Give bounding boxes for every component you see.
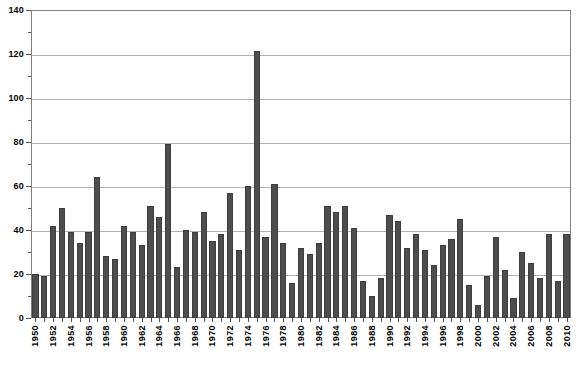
x-axis-label: 1976 <box>261 325 271 347</box>
x-axis-label: 1992 <box>402 325 412 347</box>
bar <box>324 206 330 318</box>
x-axis-label: 1972 <box>225 325 235 347</box>
x-axis-label: 1954 <box>66 325 76 347</box>
y-axis-label: 80 <box>14 137 24 147</box>
bar <box>130 232 136 318</box>
x-axis-tick <box>328 318 329 322</box>
bar <box>156 217 162 318</box>
bar <box>563 234 569 318</box>
bar <box>103 256 109 318</box>
x-axis-tick <box>363 318 364 322</box>
x-axis-tick <box>274 318 275 322</box>
x-axis-tick <box>549 318 550 322</box>
x-axis-tick <box>416 318 417 322</box>
y-axis-label: 100 <box>8 93 24 103</box>
bar <box>271 184 277 318</box>
y-axis-label: 60 <box>14 181 24 191</box>
x-axis-tick <box>62 318 63 322</box>
bar <box>227 193 233 318</box>
bar <box>245 186 251 318</box>
bar <box>307 254 313 318</box>
x-axis-tick <box>336 318 337 322</box>
x-axis-tick <box>239 318 240 322</box>
x-axis-label: 1956 <box>84 325 94 347</box>
x-axis-tick <box>301 318 302 322</box>
x-axis-tick <box>248 318 249 322</box>
x-axis-label: 1982 <box>314 325 324 347</box>
bar <box>440 245 446 318</box>
x-axis-tick <box>407 318 408 322</box>
x-axis-tick <box>53 318 54 322</box>
x-axis-tick <box>381 318 382 322</box>
x-axis-label: 2006 <box>526 325 536 347</box>
bar <box>298 248 304 318</box>
bar <box>351 228 357 318</box>
bar <box>413 234 419 318</box>
x-axis-tick <box>372 318 373 322</box>
x-axis-label: 1994 <box>420 325 430 347</box>
x-axis-tick <box>354 318 355 322</box>
bar <box>484 276 490 318</box>
x-axis-label: 1970 <box>207 325 217 347</box>
x-axis-label: 1986 <box>349 325 359 347</box>
x-axis-tick <box>531 318 532 322</box>
bar <box>395 221 401 318</box>
x-axis-tick <box>159 318 160 322</box>
x-axis-tick <box>230 318 231 322</box>
x-axis-tick <box>133 318 134 322</box>
x-axis-tick <box>460 318 461 322</box>
bar <box>50 226 56 318</box>
x-axis-label: 1990 <box>385 325 395 347</box>
x-axis-label: 1996 <box>438 325 448 347</box>
bar <box>555 281 561 318</box>
x-axis-label: 1968 <box>190 325 200 347</box>
bar <box>422 250 428 318</box>
y-axis-label: 40 <box>14 225 24 235</box>
x-axis-label: 2000 <box>473 325 483 347</box>
x-axis-tick <box>124 318 125 322</box>
x-axis-tick <box>558 318 559 322</box>
x-axis-tick <box>283 318 284 322</box>
bar <box>537 278 543 318</box>
x-axis-tick <box>195 318 196 322</box>
x-axis-label: 1964 <box>154 325 164 347</box>
bar <box>378 278 384 318</box>
x-axis-tick <box>168 318 169 322</box>
x-axis-tick <box>390 318 391 322</box>
x-axis-label: 2010 <box>562 325 572 347</box>
x-axis-tick <box>513 318 514 322</box>
bar <box>262 237 268 318</box>
x-axis-label: 1984 <box>331 325 341 347</box>
bar <box>528 263 534 318</box>
x-axis-tick <box>310 318 311 322</box>
bar <box>316 243 322 318</box>
bar <box>369 296 375 318</box>
bar <box>404 248 410 318</box>
x-axis-label: 1980 <box>296 325 306 347</box>
x-axis-tick <box>142 318 143 322</box>
x-axis-tick <box>567 318 568 322</box>
bar <box>59 208 65 318</box>
x-axis-label: 1962 <box>137 325 147 347</box>
y-axis-label: 120 <box>8 49 24 59</box>
bar <box>236 250 242 318</box>
x-axis-tick <box>80 318 81 322</box>
x-axis-tick <box>319 318 320 322</box>
bar <box>448 239 454 318</box>
bar <box>165 144 171 318</box>
x-axis-tick <box>292 318 293 322</box>
x-axis-label: 2002 <box>491 325 501 347</box>
x-axis-tick <box>434 318 435 322</box>
x-axis-tick <box>478 318 479 322</box>
bar <box>466 285 472 318</box>
x-axis-label: 1950 <box>30 325 40 347</box>
y-axis: 020406080100120140 <box>0 0 31 386</box>
bar <box>431 265 437 318</box>
bar <box>192 232 198 318</box>
bar <box>360 281 366 318</box>
x-axis-tick <box>496 318 497 322</box>
x-axis-label: 2004 <box>508 325 518 347</box>
bar <box>502 270 508 318</box>
x-axis-tick <box>257 318 258 322</box>
bar <box>112 259 118 318</box>
